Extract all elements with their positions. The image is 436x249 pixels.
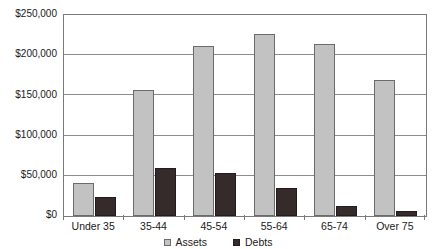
bar-debts: [215, 173, 236, 216]
legend-label: Debts: [245, 237, 272, 248]
bar-group: [64, 15, 124, 216]
y-axis: $250,000 $200,000 $150,000 $100,000 $50,…: [0, 0, 63, 249]
y-tick-label: $100,000: [15, 130, 57, 140]
bar-chart: $250,000 $200,000 $150,000 $100,000 $50,…: [0, 0, 436, 249]
bar-debts: [95, 197, 116, 216]
x-axis: Under 3535-4445-5455-6465-74Over 75: [63, 220, 425, 234]
plot-area: [63, 14, 427, 217]
x-tick-label: Under 35: [63, 220, 123, 233]
bar-group: [366, 15, 426, 216]
y-tick-label: $0: [46, 210, 57, 220]
legend-swatch-icon: [164, 239, 171, 246]
y-tick-label: $50,000: [21, 170, 57, 180]
x-tick-label: 55-64: [244, 220, 304, 233]
bar-group: [185, 15, 245, 216]
x-tick-label: Over 75: [365, 220, 425, 233]
bar-assets: [254, 34, 275, 217]
y-tick-label: $200,000: [15, 49, 57, 59]
bar-assets: [314, 44, 335, 216]
bar-assets: [73, 183, 94, 216]
bar-assets: [374, 80, 395, 216]
bar-debts: [155, 168, 176, 216]
bar-debts: [276, 188, 297, 216]
bars-layer: [64, 15, 426, 216]
x-tick-label: 65-74: [304, 220, 364, 233]
bar-assets: [133, 90, 154, 216]
legend-item-assets: Assets: [164, 237, 208, 248]
bar-group: [124, 15, 184, 216]
legend-item-debts: Debts: [233, 237, 272, 248]
legend-swatch-icon: [233, 239, 240, 246]
x-tick-label: 35-44: [123, 220, 183, 233]
legend-label: Assets: [176, 237, 208, 248]
x-tick-label: 45-54: [184, 220, 244, 233]
bar-group: [245, 15, 305, 216]
chart-legend: Assets Debts: [0, 235, 436, 249]
bar-group: [305, 15, 365, 216]
y-tick-label: $150,000: [15, 90, 57, 100]
y-tick-label: $250,000: [15, 9, 57, 19]
bar-assets: [193, 46, 214, 216]
